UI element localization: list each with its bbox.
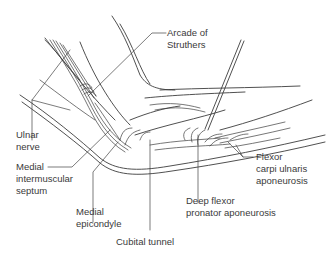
label-medial-epicondyle: Medial epicondyle bbox=[76, 206, 121, 230]
probe-instrument bbox=[205, 40, 244, 130]
upper-arm-contours bbox=[40, 16, 175, 125]
label-cubital-tunnel: Cubital tunnel bbox=[116, 236, 174, 248]
ulnar-nerve-bundle bbox=[50, 40, 131, 152]
label-ulnar-nerve: Ulnar nerve bbox=[16, 129, 40, 153]
label-arcade-of-struthers: Arcade of Struthers bbox=[167, 27, 208, 51]
elbow-anatomy-drawing bbox=[0, 0, 329, 260]
label-flexor-carpi-ulnaris-aponeurosis: Flexor carpi ulnaris aponeurosis bbox=[256, 151, 308, 187]
label-medial-intermuscular-septum: Medial intermuscular septum bbox=[16, 161, 73, 197]
aponeurosis-fibers bbox=[120, 128, 248, 146]
label-deep-flexor-pronator-aponeurosis: Deep flexor pronator aponeurosis bbox=[186, 195, 276, 219]
